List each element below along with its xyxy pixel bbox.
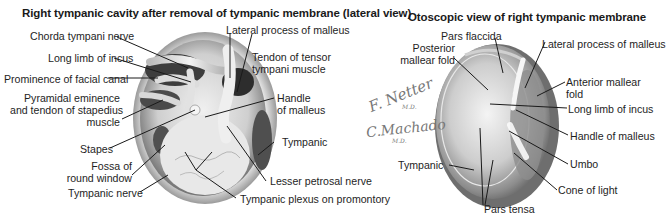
label-tympanic-left: Tympanic bbox=[282, 136, 327, 148]
left-panel-title: Right tympanic cavity after removal of t… bbox=[22, 7, 411, 19]
signature-netter-md: M.D. bbox=[402, 103, 417, 110]
label-fossa-line2: round window bbox=[60, 172, 132, 184]
label-handle-of-malleus-right: Handle of malleus bbox=[570, 130, 655, 142]
label-tendon-of-tensor-tympani: Tendon of tensor tympani muscle bbox=[252, 51, 331, 75]
label-handle-line2: of malleus bbox=[277, 104, 325, 116]
label-umbo: Umbo bbox=[570, 158, 598, 170]
label-handle-line1: Handle bbox=[277, 92, 325, 104]
label-tendon-line1: Tendon of tensor bbox=[252, 51, 331, 63]
label-cone-of-light: Cone of light bbox=[558, 184, 617, 196]
label-lesser-petrosal-nerve: Lesser petrosal nerve bbox=[270, 175, 372, 187]
label-anterior-mallear-fold: Anterior mallear fold bbox=[566, 76, 641, 100]
signature-machado-md: M.D. bbox=[392, 137, 407, 144]
label-anterior-line1: Anterior mallear bbox=[566, 76, 641, 88]
label-pars-tensa: Pars tensa bbox=[484, 203, 535, 215]
label-long-limb-of-incus: Long limb of incus bbox=[48, 52, 133, 64]
label-posterior-line1: Posterior bbox=[400, 42, 455, 54]
label-tendon-line2: tympani muscle bbox=[252, 63, 331, 75]
label-fossa-of-round-window: Fossa of round window bbox=[60, 160, 132, 184]
label-prominence-of-facial-canal: Prominence of facial canal bbox=[4, 73, 128, 85]
right-panel-title: Otoscopic view of right tympanic membran… bbox=[408, 11, 646, 23]
label-anterior-line2: fold bbox=[566, 88, 641, 100]
label-lateral-process-of-malleus-left: Lateral process of malleus bbox=[226, 24, 350, 36]
label-handle-of-malleus-left: Handle of malleus bbox=[277, 92, 325, 116]
label-long-limb-of-incus-right: Long limb of incus bbox=[568, 103, 653, 115]
label-fossa-line1: Fossa of bbox=[60, 160, 132, 172]
tympanic-membrane-illustration bbox=[435, 44, 559, 208]
label-posterior-line2: mallear fold bbox=[400, 54, 455, 66]
label-tympanic-plexus-on-promontory: Tympanic plexus on promontory bbox=[240, 193, 390, 205]
label-tympanic-right: Tympanic bbox=[398, 159, 443, 171]
label-tympanic-nerve: Tympanic nerve bbox=[68, 187, 143, 199]
label-stapes: Stapes bbox=[80, 143, 113, 155]
label-pyramidal-line2: and tendon of stapedius bbox=[10, 104, 120, 116]
label-pyramidal-line3: muscle bbox=[10, 116, 120, 128]
label-posterior-mallear-fold: Posterior mallear fold bbox=[400, 42, 455, 66]
label-chorda-tympani-nerve: Chorda tympani nerve bbox=[30, 30, 134, 42]
label-pyramidal-eminence: Pyramidal eminence and tendon of stapedi… bbox=[10, 92, 120, 128]
label-pyramidal-line1: Pyramidal eminence bbox=[10, 92, 120, 104]
label-pars-flaccida: Pars flaccida bbox=[441, 30, 502, 42]
label-lateral-process-of-malleus-right: Lateral process of malleus bbox=[542, 38, 666, 50]
